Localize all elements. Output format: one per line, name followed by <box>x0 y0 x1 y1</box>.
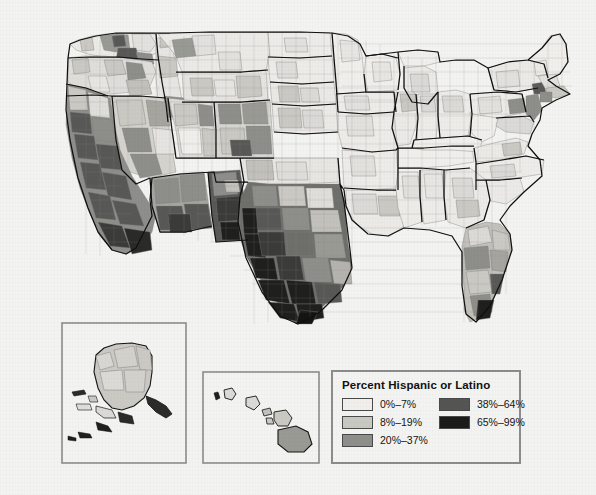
legend-item-8-19: 8%–19% <box>342 415 428 429</box>
legend-item-65-99: 65%–99% <box>439 415 525 429</box>
legend-label-38-64: 38%–64% <box>477 398 525 410</box>
legend-item-38-64: 38%–64% <box>439 397 525 411</box>
legend-item-20-37: 20%–37% <box>342 433 428 447</box>
legend-column-left: 0%–7% 8%–19% 20%–37% <box>342 397 428 451</box>
legend-column-right: 38%–64% 65%–99% <box>439 397 525 451</box>
map-figure: Percent Hispanic or Latino 0%–7% 8%–19% … <box>0 0 596 495</box>
legend-swatch-8-19 <box>342 416 373 429</box>
alaska-inset <box>62 323 186 463</box>
legend-swatch-65-99 <box>439 416 470 429</box>
legend-swatch-38-64 <box>439 398 470 411</box>
legend-label-20-37: 20%–37% <box>380 434 428 446</box>
county-fills <box>66 32 570 324</box>
map-legend: Percent Hispanic or Latino 0%–7% 8%–19% … <box>331 370 521 464</box>
legend-label-0-7: 0%–7% <box>380 398 416 410</box>
contiguous-us-map <box>66 32 572 324</box>
legend-title: Percent Hispanic or Latino <box>342 379 519 391</box>
legend-item-0-7: 0%–7% <box>342 397 428 411</box>
hawaii-inset <box>203 372 319 463</box>
legend-swatch-20-37 <box>342 434 373 447</box>
legend-swatch-0-7 <box>342 398 373 411</box>
legend-label-65-99: 65%–99% <box>477 416 525 428</box>
legend-label-8-19: 8%–19% <box>380 416 422 428</box>
